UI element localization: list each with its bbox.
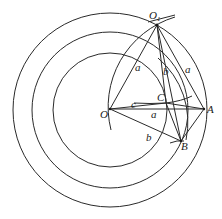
- point-O1: [155, 23, 158, 26]
- edge-label-O-O1: a: [135, 61, 141, 73]
- label-B: B: [181, 140, 188, 152]
- label-C: C: [157, 91, 165, 103]
- edge-label-O1-C: b: [163, 65, 169, 77]
- edge-label-O-B: b: [146, 131, 152, 143]
- label-O1: O1: [149, 9, 160, 23]
- edge-label-O-C: c: [131, 98, 136, 110]
- edge-label-O1-A: a: [185, 63, 191, 75]
- label-A: A: [206, 103, 214, 115]
- segment-B-A: [181, 109, 204, 141]
- label-O: O: [100, 108, 108, 120]
- segment-C-A: [166, 103, 204, 109]
- segment-O-C: [110, 103, 166, 109]
- point-A: [203, 108, 205, 110]
- point-O: [109, 108, 111, 110]
- geometry-diagram: O1 O A B C a b a a b c: [0, 0, 222, 219]
- edge-label-O-A: a: [151, 108, 157, 120]
